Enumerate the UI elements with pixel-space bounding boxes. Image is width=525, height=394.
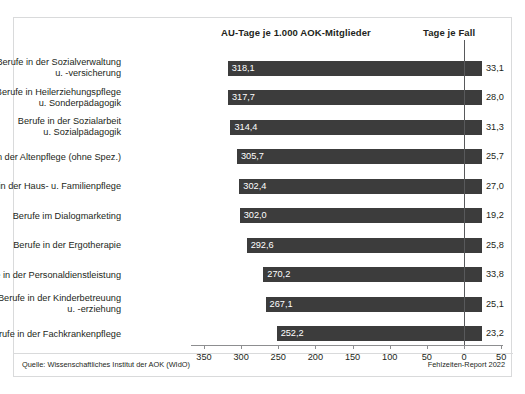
bar-value-label: 252,2 — [277, 326, 304, 341]
bar-value-label: 270,2 — [263, 267, 290, 282]
zero-baseline — [464, 40, 465, 345]
axis-tick — [353, 345, 354, 349]
report-note: Fehlzeiten-Report 2022 — [428, 360, 505, 369]
chart-row: Berufe in der Altenpflege (ohne Spez.)30… — [14, 143, 513, 173]
chart-row: Berufe im Dialogmarketing302,019,2 — [14, 202, 513, 232]
source-note: Quelle: Wissenschaftliches Institut der … — [22, 360, 190, 369]
bar — [277, 326, 482, 341]
axis-tick — [204, 345, 205, 349]
tage-je-fall-value: 23,2 — [486, 326, 504, 341]
tage-je-fall-value: 27,0 — [486, 179, 504, 194]
chart-row: Berufe in Heilerziehungspflege u. Sonder… — [14, 84, 513, 114]
bar-value-label: 302,0 — [240, 208, 267, 223]
category-label: Berufe in der Ergotherapie — [0, 231, 121, 251]
axis-tick — [241, 345, 242, 349]
bar — [240, 208, 482, 223]
chart-figure: AU-Tage je 1.000 AOK-Mitglieder Tage je … — [13, 17, 512, 377]
bar-value-label: 292,6 — [247, 238, 274, 253]
bar-value-label: 302,4 — [239, 179, 266, 194]
bar — [237, 149, 482, 164]
chart-row: Berufe in der Haus- u. Familienpflege302… — [14, 172, 513, 202]
tage-je-fall-value: 25,7 — [486, 149, 504, 164]
bar-value-label: 314,4 — [230, 120, 257, 135]
tage-je-fall-value: 31,3 — [486, 120, 504, 135]
axis-tick — [278, 345, 279, 349]
bar — [230, 120, 482, 135]
category-label: Berufe in der Sozialverwaltung u. -versi… — [0, 54, 121, 80]
bar — [228, 90, 482, 105]
plot-area: Berufe in der Sozialverwaltung u. -versi… — [14, 18, 513, 378]
tage-je-fall-value: 33,1 — [486, 61, 504, 76]
category-label: Berufe in Heilerziehungspflege u. Sonder… — [0, 84, 121, 110]
category-label: Berufe in der Kinderbetreuung u. -erzieh… — [0, 290, 121, 316]
tage-je-fall-value: 19,2 — [486, 208, 504, 223]
bar-value-label: 267,1 — [266, 297, 293, 312]
tage-je-fall-value: 25,1 — [486, 297, 504, 312]
x-axis-line — [191, 345, 503, 346]
axis-tick — [390, 345, 391, 349]
bar — [239, 179, 482, 194]
chart-row: Berufe in der Kinderbetreuung u. -erzieh… — [14, 290, 513, 320]
tage-je-fall-value: 25,8 — [486, 238, 504, 253]
chart-row: Berufe in der Personaldienstleistung270,… — [14, 261, 513, 291]
bar — [228, 61, 482, 76]
category-label: Berufe im Dialogmarketing — [0, 202, 121, 222]
category-label: Berufe in der Haus- u. Familienpflege — [0, 172, 121, 192]
bar — [266, 297, 482, 312]
bar-value-label: 305,7 — [237, 149, 264, 164]
axis-tick — [501, 345, 502, 349]
axis-tick — [427, 345, 428, 349]
tage-je-fall-value: 33,8 — [486, 267, 504, 282]
category-label: Berufe in der Altenpflege (ohne Spez.) — [0, 143, 121, 163]
bar-value-label: 318,1 — [228, 61, 255, 76]
chart-row: Berufe in der Sozialarbeit u. Sozialpäda… — [14, 113, 513, 143]
axis-tick — [315, 345, 316, 349]
bar — [247, 238, 482, 253]
category-label: Berufe in der Personaldienstleistung — [0, 261, 121, 281]
bar-value-label: 317,7 — [228, 90, 255, 105]
tage-je-fall-value: 28,0 — [486, 90, 504, 105]
chart-row: Berufe in der Ergotherapie292,625,8 — [14, 231, 513, 261]
bar — [263, 267, 482, 282]
category-label: Berufe in der Fachkrankenpflege — [0, 320, 121, 340]
chart-footer: Quelle: Wissenschaftliches Institut der … — [14, 353, 513, 377]
axis-tick — [464, 345, 465, 349]
category-label: Berufe in der Sozialarbeit u. Sozialpäda… — [0, 113, 121, 139]
chart-row: Berufe in der Sozialverwaltung u. -versi… — [14, 54, 513, 84]
